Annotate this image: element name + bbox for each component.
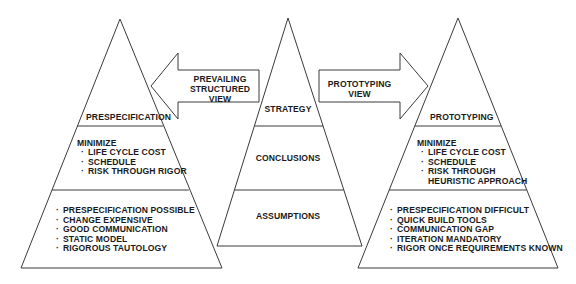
center-pyramid-bottom-label: ASSUMPTIONS <box>248 211 328 221</box>
right-arrow-line-1: PROTOTYPING <box>318 79 401 89</box>
left-pyramid-middle: MINIMIZE LIFE CYCLE COST SCHEDULE RISK T… <box>77 138 187 177</box>
center-pyramid-top-label: STRATEGY <box>248 104 328 114</box>
left-arrow-line-2: STRUCTURED <box>180 84 260 94</box>
center-pyramid-middle-label: CONCLUSIONS <box>248 153 328 163</box>
right-pyramid-top-label: PROTOTYPING <box>430 112 494 122</box>
right-arrow-label: PROTOTYPING VIEW <box>318 79 401 99</box>
right-pyramid-bottom: PRESPECIFICATION DIFFICULT QUICK BUILD T… <box>390 206 563 254</box>
right-arrow-line-2: VIEW <box>318 89 401 99</box>
left-pyramid-top-label: PRESPECIFICATION <box>86 112 171 122</box>
left-arrow-line-1: PREVAILING <box>180 74 260 84</box>
left-arrow-line-3: VIEW <box>180 94 260 104</box>
left-arrow-label: PREVAILING STRUCTURED VIEW <box>180 74 260 104</box>
right-pyramid-middle-item-continuation: HEURISTIC APPROACH <box>421 177 527 187</box>
left-pyramid-bottom-item: RIGOROUS TAUTOLOGY <box>56 244 195 254</box>
right-pyramid-bottom-item: RIGOR ONCE REQUIREMENTS KNOWN <box>390 244 563 254</box>
left-pyramid-bottom: PRESPECIFICATION POSSIBLE CHANGE EXPENSI… <box>56 206 195 254</box>
left-pyramid-middle-item: RISK THROUGH RIGOR <box>81 167 187 177</box>
right-pyramid-middle: MINIMIZE LIFE CYCLE COST SCHEDULE RISK T… <box>417 138 527 186</box>
